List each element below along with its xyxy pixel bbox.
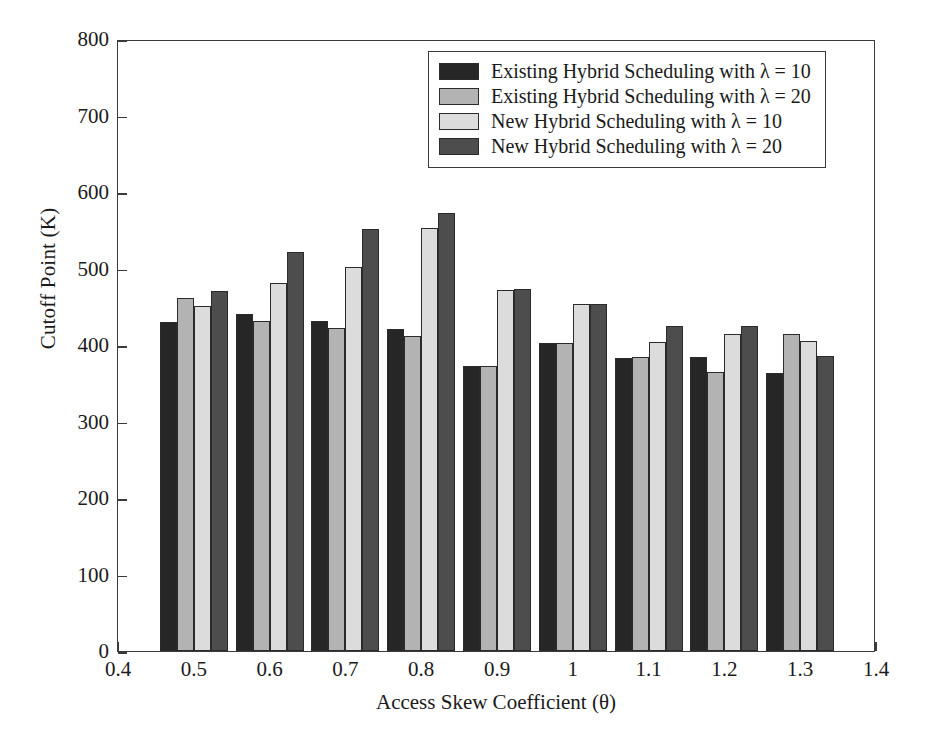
bar [573,304,590,651]
legend-swatch [439,63,479,80]
legend-label: New Hybrid Scheduling with λ = 10 [491,110,782,133]
bar [707,372,724,651]
bar [741,326,758,651]
y-tick-mark [118,652,127,654]
bar [160,322,177,651]
y-tick-label: 700 [78,104,110,129]
bar [649,342,666,651]
y-tick-label: 400 [78,333,110,358]
bar [463,366,480,651]
bar-chart-figure: Cutoff Point (K) Access Skew Coefficient… [0,0,926,748]
bar [690,357,707,651]
bar [177,298,194,651]
x-tick-label: 1.3 [760,657,840,682]
legend-label: Existing Hybrid Scheduling with λ = 20 [491,85,811,108]
legend-item-2: New Hybrid Scheduling with λ = 10 [439,109,811,134]
bar [800,341,817,651]
x-tick-label: 1.1 [609,657,689,682]
bar [211,291,228,651]
bar [194,306,211,651]
y-axis-label: Cutoff Point (K) [36,169,61,389]
x-tick-mark [875,642,877,651]
x-tick-label: 0.9 [457,657,537,682]
x-tick-label: 0.5 [154,657,234,682]
bar [539,343,556,651]
x-tick-label: 0.8 [381,657,461,682]
bar [362,229,379,651]
bar [404,336,421,651]
x-tick-label: 1.2 [684,657,764,682]
x-tick-label: 0.7 [305,657,385,682]
bar [480,366,497,651]
bar [387,329,404,651]
bar [615,358,632,651]
legend-swatch [439,88,479,105]
bar [497,290,514,651]
bar [590,304,607,651]
y-tick-label: 100 [78,563,110,588]
bar [766,373,783,651]
bar [236,314,253,651]
legend-item-1: Existing Hybrid Scheduling with λ = 20 [439,84,811,109]
y-tick-label: 500 [78,257,110,282]
bar [783,334,800,651]
bar [421,228,438,651]
legend-item-0: Existing Hybrid Scheduling with λ = 10 [439,59,811,84]
bar [666,326,683,651]
bar [556,343,573,651]
bar [817,356,834,651]
bar [328,328,345,651]
x-tick-label: 0.6 [230,657,310,682]
legend-swatch [439,113,479,130]
bar [311,321,328,651]
legend-label: Existing Hybrid Scheduling with λ = 10 [491,60,811,83]
legend-swatch [439,138,479,155]
x-tick-label: 1 [533,657,613,682]
bar [253,321,270,651]
y-tick-label: 300 [78,410,110,435]
chart-legend: Existing Hybrid Scheduling with λ = 10Ex… [428,51,826,168]
x-tick-label: 0.4 [78,657,158,682]
x-axis-label: Access Skew Coefficient (θ) [117,690,875,715]
y-tick-label: 600 [78,180,110,205]
x-tick-label: 1.4 [836,657,916,682]
bar [632,357,649,651]
legend-label: New Hybrid Scheduling with λ = 20 [491,135,782,158]
y-tick-label: 200 [78,486,110,511]
legend-item-3: New Hybrid Scheduling with λ = 20 [439,134,811,159]
bar [270,283,287,651]
bar [345,267,362,651]
bar [287,252,304,651]
y-tick-label: 800 [78,27,110,52]
bar [438,213,455,651]
bar [514,289,531,651]
bar [724,334,741,651]
